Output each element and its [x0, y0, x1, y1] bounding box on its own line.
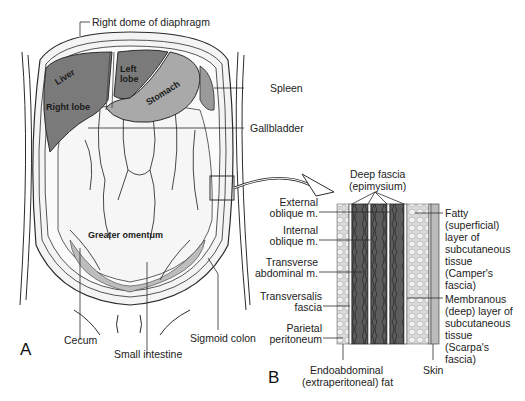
fatty-label-3: layer of: [445, 231, 479, 243]
membranous-label-2: (deep) layer of: [445, 305, 513, 317]
tissue-layers: [337, 204, 439, 344]
membranous-label-5: (Scarpa's: [445, 341, 489, 353]
endo-fat-label-2: (extraperitoneal) fat: [302, 376, 393, 388]
endo-fat-label-1: Endoabdominal: [310, 364, 383, 376]
fatty-label-4: subcutaneous: [445, 243, 510, 255]
membranous-label-1: Membranous: [445, 293, 506, 305]
int-oblique-label-2: oblique m.: [270, 235, 318, 247]
fatty-label-2: (superficial): [445, 219, 499, 231]
fatty-label-5: tissue: [445, 255, 472, 267]
parietal-label-2: peritoneum: [269, 333, 322, 345]
deep-fascia-label-1: Deep fascia: [350, 168, 405, 180]
diaphragm-label: Right dome of diaphragm: [92, 16, 210, 28]
fatty-label-6: (Camper's: [445, 267, 493, 279]
membranous-label-6: fascia): [445, 353, 476, 365]
ext-oblique-label-2: oblique m.: [270, 207, 318, 219]
left-lobe-label-2: lobe: [120, 74, 139, 84]
right-lobe-label: Right lobe: [46, 102, 90, 112]
sigmoid-colon-label: Sigmoid colon: [190, 332, 256, 344]
gallbladder-label: Gallbladder: [250, 122, 304, 134]
spleen-label: Spleen: [270, 82, 303, 94]
small-intestine-label: Small intestine: [114, 348, 182, 360]
transverse-label-2: abdominal m.: [255, 267, 318, 279]
zoom-arrow: [234, 178, 310, 188]
greater-omentum-label: Greater omentum: [88, 230, 163, 240]
fatty-label-7: fascia): [445, 279, 476, 291]
fatty-label-1: Fatty: [445, 207, 468, 219]
panel-letter-a: A: [20, 340, 31, 360]
skin-label: Skin: [423, 364, 443, 376]
membranous-label-3: subcutaneous: [445, 317, 510, 329]
transversalis-label-2: fascia: [295, 301, 322, 313]
cecum-label: Cecum: [64, 334, 97, 346]
left-lobe-label-1: Left: [120, 64, 137, 74]
membranous-label-4: tissue: [445, 329, 472, 341]
deep-fascia-label-2: (epimysium): [349, 180, 406, 192]
panel-letter-b: B: [268, 368, 279, 388]
